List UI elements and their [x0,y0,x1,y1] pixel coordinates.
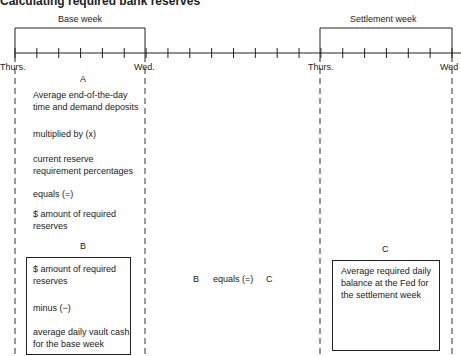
section-a-line-required-reserves: $ amount of required reserves [33,208,123,232]
equation-right: C [266,274,273,284]
section-b-line-minus: minus (−) [33,302,128,314]
section-a-line-percentages: current reserve requirement percentages [33,153,141,177]
tick-label-thurs-2: Thurs. [308,62,334,72]
tick-label-wed-2: Wed [440,62,458,72]
tick-label-thurs-1: Thurs. [0,62,26,72]
section-c-line-fed-balance: Average required daily balance at the Fe… [341,265,437,301]
base-week-label: Base week [58,14,102,24]
section-b-line-required-reserves: $ amount of required reserves [33,263,128,287]
section-b-line-vault-cash: average daily vault cash for the base we… [33,326,133,350]
equation-operator: equals (=) [213,274,253,284]
settlement-week-label: Settlement week [350,14,417,24]
section-c-letter: C [382,244,389,254]
equation-left: B [193,274,199,284]
section-b-letter: B [80,241,86,251]
tick-label-wed-1: Wed. [134,62,155,72]
section-a-letter: A [80,74,86,84]
section-a-line-deposits: Average end-of-the-day time and demand d… [33,89,145,113]
section-a-line-multiplied: multiplied by (x) [33,128,145,140]
section-a-line-equals: equals (=) [33,188,145,200]
